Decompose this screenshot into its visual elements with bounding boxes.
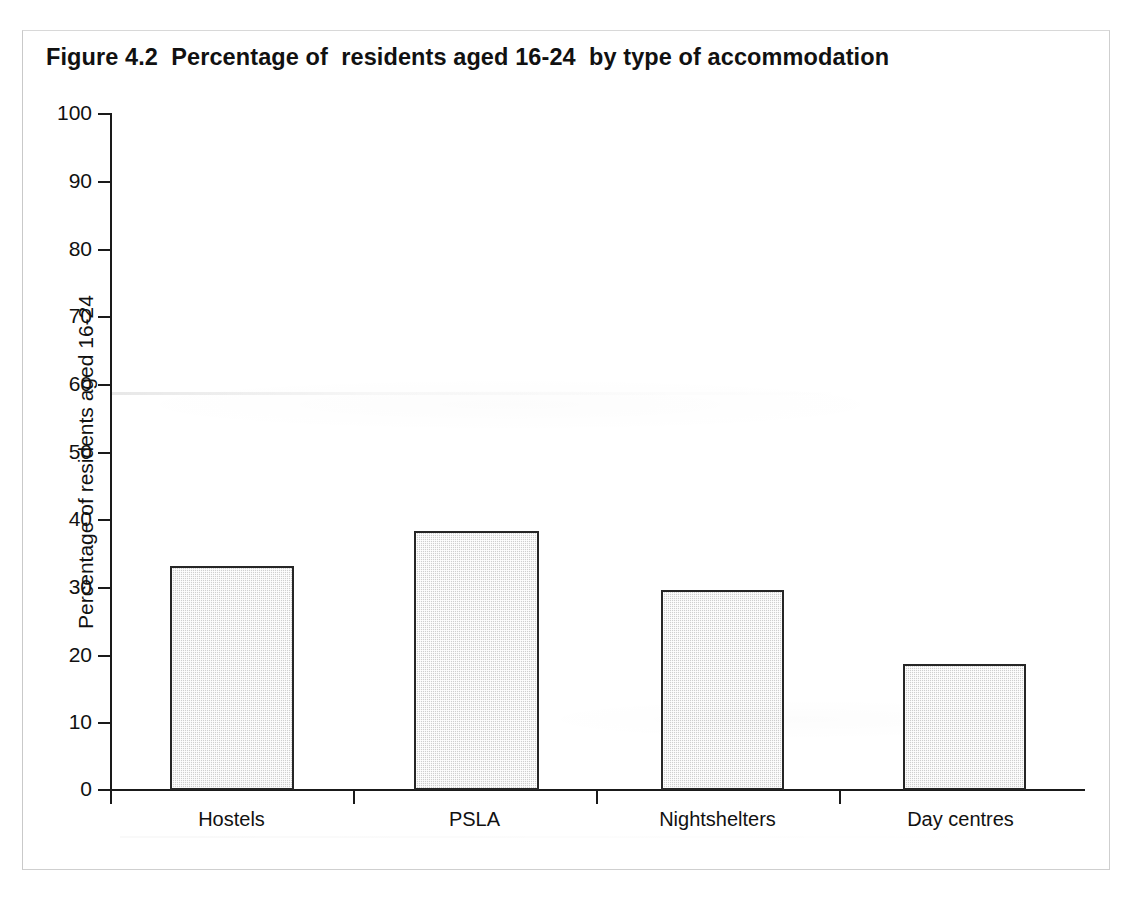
figure-frame bbox=[22, 30, 1110, 870]
chart-title: Figure 4.2 Percentage of residents aged … bbox=[46, 44, 889, 71]
